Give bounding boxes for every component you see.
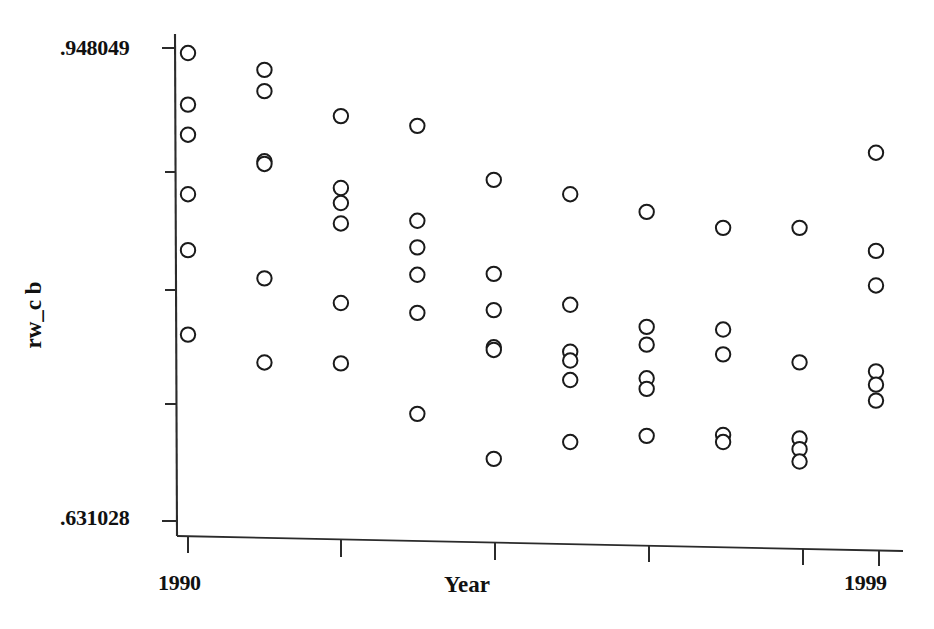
scatter-point bbox=[487, 452, 501, 466]
axis-lines bbox=[175, 34, 903, 551]
plot-canvas bbox=[0, 0, 934, 629]
y-axis-line bbox=[175, 34, 177, 536]
scatter-point bbox=[716, 347, 730, 361]
scatter-point bbox=[869, 244, 883, 258]
scatter-point bbox=[639, 337, 653, 351]
scatter-plot-figure: .948049 .631028 1990 1999 Year rw_c b bbox=[0, 0, 934, 629]
scatter-point bbox=[792, 355, 806, 369]
scatter-point bbox=[563, 187, 577, 201]
scatter-point bbox=[181, 327, 195, 341]
scatter-point bbox=[716, 435, 730, 449]
scatter-point bbox=[181, 243, 195, 257]
scatter-point bbox=[563, 353, 577, 367]
scatter-point bbox=[257, 355, 271, 369]
scatter-point bbox=[869, 278, 883, 292]
scatter-point bbox=[410, 407, 424, 421]
scatter-point bbox=[792, 221, 806, 235]
scatter-point bbox=[334, 296, 348, 310]
scatter-point bbox=[639, 429, 653, 443]
y-axis-title: rw_c b bbox=[21, 281, 47, 348]
y-axis-title-wrapper: rw_c b bbox=[4, 0, 64, 629]
scatter-point bbox=[334, 181, 348, 195]
scatter-point bbox=[181, 97, 195, 111]
scatter-point bbox=[869, 146, 883, 160]
scatter-point bbox=[563, 373, 577, 387]
scatter-point bbox=[716, 221, 730, 235]
scatter-point bbox=[257, 157, 271, 171]
scatter-point bbox=[792, 454, 806, 468]
scatter-point bbox=[639, 320, 653, 334]
scatter-point bbox=[869, 364, 883, 378]
scatter-point bbox=[563, 435, 577, 449]
y-axis-max-tick-label: .948049 bbox=[60, 35, 129, 61]
scatter-point bbox=[181, 46, 195, 60]
scatter-point bbox=[487, 343, 501, 357]
scatter-point bbox=[487, 173, 501, 187]
scatter-point bbox=[487, 303, 501, 317]
scatter-point bbox=[869, 377, 883, 391]
scatter-point bbox=[257, 84, 271, 98]
scatter-point bbox=[334, 196, 348, 210]
scatter-point bbox=[639, 205, 653, 219]
scatter-point bbox=[716, 322, 730, 336]
scatter-point bbox=[869, 393, 883, 407]
scatter-point bbox=[334, 109, 348, 123]
scatter-point bbox=[410, 268, 424, 282]
scatter-point bbox=[257, 63, 271, 77]
scatter-point bbox=[181, 187, 195, 201]
scatter-point bbox=[410, 306, 424, 320]
data-point-group bbox=[181, 46, 883, 469]
x-axis-line bbox=[177, 536, 903, 551]
scatter-point bbox=[257, 271, 271, 285]
scatter-point bbox=[410, 119, 424, 133]
scatter-point bbox=[639, 382, 653, 396]
scatter-point bbox=[181, 128, 195, 142]
scatter-point bbox=[410, 240, 424, 254]
scatter-point bbox=[410, 214, 424, 228]
scatter-point bbox=[334, 356, 348, 370]
scatter-point bbox=[487, 267, 501, 281]
x-axis-ticks bbox=[188, 537, 879, 566]
scatter-point bbox=[563, 298, 577, 312]
x-axis-title: Year bbox=[0, 572, 934, 598]
y-axis-min-tick-label: .631028 bbox=[60, 505, 129, 531]
scatter-point bbox=[334, 216, 348, 230]
